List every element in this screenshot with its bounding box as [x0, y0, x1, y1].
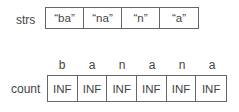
count-letter: b — [47, 58, 77, 72]
strs-array: “ba” “na” “n” “a” — [45, 7, 199, 29]
strs-cell: “ba” — [46, 8, 84, 28]
count-cell: INF — [48, 76, 78, 101]
strs-cell: “n” — [122, 8, 160, 28]
strs-cell: “na” — [84, 8, 122, 28]
count-cell: INF — [167, 76, 197, 101]
count-cell: INF — [196, 76, 226, 101]
count-cell: INF — [107, 76, 137, 101]
count-cell: INF — [137, 76, 167, 101]
count-letter: a — [77, 58, 107, 72]
count-letter: a — [197, 58, 227, 72]
count-cell: INF — [78, 76, 108, 101]
count-array: INF INF INF INF INF INF — [47, 75, 227, 102]
count-letter: n — [167, 58, 197, 72]
strs-label: strs — [16, 13, 35, 27]
strs-cell: “a” — [160, 8, 198, 28]
count-letter: n — [107, 58, 137, 72]
count-letter: a — [137, 58, 167, 72]
count-letter-row: b a n a n a — [47, 58, 227, 72]
count-label: count — [11, 82, 40, 96]
